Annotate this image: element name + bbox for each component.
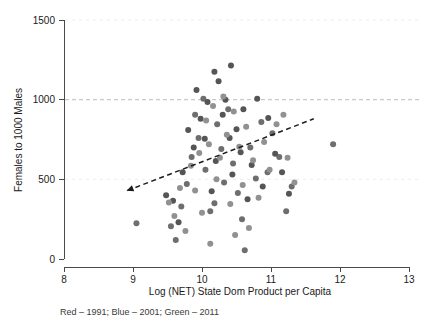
data-points-group <box>133 62 336 253</box>
gridlines-group <box>65 20 421 179</box>
data-point <box>178 203 184 209</box>
data-point <box>177 185 183 191</box>
axes-group <box>64 20 409 267</box>
data-point <box>227 201 233 207</box>
data-point <box>238 149 244 155</box>
data-point <box>207 241 213 247</box>
data-point <box>220 112 226 118</box>
data-point <box>189 154 195 160</box>
data-point <box>184 181 190 187</box>
data-point <box>258 119 264 125</box>
y-tick-label-0: 0 <box>49 254 55 265</box>
y-tick-label-500: 500 <box>38 174 55 185</box>
data-point <box>228 62 234 68</box>
data-point <box>291 180 297 186</box>
data-point <box>133 220 139 226</box>
x-tick-label-11: 11 <box>266 274 277 285</box>
y-tick-label-1000: 1000 <box>33 94 56 105</box>
data-point <box>235 190 241 196</box>
legend-caption: Red – 1991; Blue – 2001; Green – 2011 <box>60 307 219 317</box>
data-point <box>191 144 197 150</box>
data-point <box>202 136 208 142</box>
data-point <box>196 150 202 156</box>
data-point <box>229 172 235 178</box>
x-tick-label-9: 9 <box>130 274 136 285</box>
data-point <box>239 216 245 222</box>
data-point <box>180 169 186 175</box>
data-point <box>206 141 212 147</box>
data-point <box>224 132 230 138</box>
data-point <box>202 167 208 173</box>
data-point <box>283 208 289 214</box>
x-tick-label-8: 8 <box>61 274 67 285</box>
chart-canvas: 050010001500 8910111213 Females to 1000 … <box>0 0 427 328</box>
x-tick-group: 8910111213 <box>61 267 415 285</box>
data-point <box>203 117 209 123</box>
data-point <box>185 127 191 133</box>
data-point <box>254 96 260 102</box>
data-point <box>192 187 198 193</box>
data-point <box>173 237 179 243</box>
data-point <box>279 169 285 175</box>
data-point <box>240 182 246 188</box>
x-axis-title: Log (NET) State Dom Product per Capita <box>149 286 332 297</box>
y-axis-title: Females to 1000 Males <box>13 88 24 192</box>
data-point <box>210 103 216 109</box>
data-point <box>245 196 251 202</box>
data-point <box>253 176 259 182</box>
data-point <box>168 223 174 229</box>
scatter-chart-figure: 050010001500 8910111213 Females to 1000 … <box>0 0 427 328</box>
x-tick-label-13: 13 <box>403 274 415 285</box>
data-point <box>250 157 256 163</box>
data-point <box>260 184 266 190</box>
data-point <box>330 141 336 147</box>
data-point <box>171 213 177 219</box>
data-point <box>267 167 273 173</box>
data-point <box>232 232 238 238</box>
data-point <box>286 191 292 197</box>
data-point <box>220 93 226 99</box>
data-point <box>246 225 252 231</box>
trend-line-arrowhead <box>127 185 135 191</box>
data-point <box>280 112 286 118</box>
data-point <box>230 160 236 166</box>
data-point <box>231 109 237 115</box>
x-tick-label-12: 12 <box>334 274 346 285</box>
data-point <box>234 126 240 132</box>
data-point <box>256 195 262 201</box>
data-point <box>243 124 249 130</box>
data-point <box>242 247 248 253</box>
data-point <box>272 151 278 157</box>
data-point <box>207 208 213 214</box>
data-point <box>193 87 199 93</box>
data-point <box>198 116 204 122</box>
y-tick-group: 050010001500 <box>33 15 64 265</box>
data-point <box>240 106 246 112</box>
data-point <box>213 176 219 182</box>
data-point <box>216 78 222 84</box>
data-point <box>218 146 224 152</box>
data-point <box>285 155 291 161</box>
data-point <box>265 115 271 121</box>
data-point <box>261 139 267 145</box>
data-point <box>192 112 198 118</box>
data-point <box>182 228 188 234</box>
data-point <box>214 121 220 127</box>
data-point <box>274 121 280 127</box>
data-point <box>209 188 215 194</box>
data-point <box>211 69 217 75</box>
data-point <box>221 180 227 186</box>
data-point <box>205 99 211 105</box>
data-point <box>247 144 253 150</box>
data-point <box>163 192 169 198</box>
data-point <box>225 106 231 112</box>
x-tick-label-10: 10 <box>196 274 208 285</box>
data-point <box>166 199 172 205</box>
data-point <box>196 135 202 141</box>
y-tick-label-1500: 1500 <box>33 15 56 26</box>
data-point <box>199 210 205 216</box>
data-point <box>211 200 217 206</box>
data-point <box>176 219 182 225</box>
